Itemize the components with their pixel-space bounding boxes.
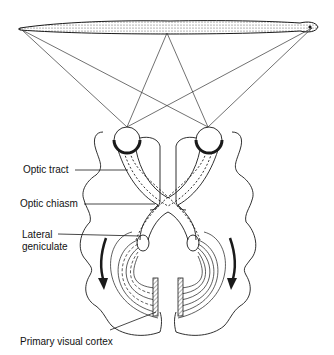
left-arrow-icon	[98, 238, 108, 290]
primary-visual-cortex-label: Primary visual cortex	[20, 336, 113, 348]
light-rays	[22, 28, 312, 127]
visual-pathway-diagram	[0, 0, 334, 355]
leader-lines	[58, 170, 156, 330]
left-visual-cortex	[153, 278, 158, 316]
optic-tract-label: Optic tract	[23, 164, 69, 176]
lateral-geniculate-label-line2: geniculate	[22, 241, 68, 253]
optic-chiasm-label: Optic chiasm	[20, 198, 78, 210]
lateral-geniculate-label-line1: Lateral	[22, 229, 53, 241]
snake-stimulus	[19, 21, 319, 34]
left-eye	[114, 127, 140, 153]
brain-outline	[80, 132, 256, 335]
right-visual-cortex	[178, 278, 183, 316]
optic-radiations	[111, 232, 226, 318]
right-eye	[196, 127, 222, 153]
right-arrow-icon	[227, 238, 237, 290]
